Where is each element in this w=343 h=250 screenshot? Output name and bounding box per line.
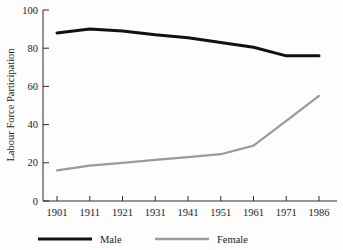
x-tick-label: 1941 xyxy=(178,207,199,218)
x-tick-group: 190119111921193119411951196119711986 xyxy=(47,196,330,218)
chart-legend: MaleFemale xyxy=(38,234,248,245)
chart-figure: 020406080100 190119111921193119411951196… xyxy=(0,0,343,250)
x-tick-label: 1911 xyxy=(79,207,100,218)
x-tick-label: 1961 xyxy=(243,207,264,218)
x-tick-label: 1951 xyxy=(210,207,231,218)
y-tick-label: 80 xyxy=(28,43,39,54)
y-tick-label: 100 xyxy=(22,5,38,16)
line-chart: 020406080100 190119111921193119411951196… xyxy=(0,0,343,250)
y-tick-label: 20 xyxy=(28,157,39,168)
series-line-female xyxy=(57,96,319,170)
y-tick-label: 60 xyxy=(28,81,39,92)
x-tick-label: 1986 xyxy=(309,207,330,218)
y-axis-title: Labour Force Participation xyxy=(5,48,16,162)
y-tick-group: 020406080100 xyxy=(22,5,49,207)
x-tick-label: 1931 xyxy=(145,207,166,218)
x-tick-label: 1971 xyxy=(276,207,297,218)
y-tick-label: 40 xyxy=(28,119,39,130)
x-tick-label: 1901 xyxy=(47,207,68,218)
x-tick-label: 1921 xyxy=(112,207,133,218)
series-line-male xyxy=(57,29,319,56)
legend-label-male: Male xyxy=(100,234,122,245)
y-tick-label: 0 xyxy=(33,196,38,207)
legend-label-female: Female xyxy=(217,234,248,245)
series-group xyxy=(57,29,319,170)
